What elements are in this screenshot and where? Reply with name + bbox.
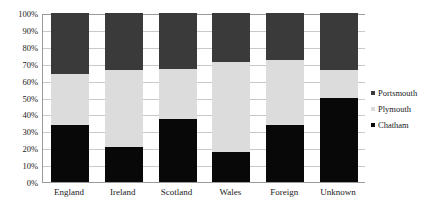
- y-axis-tick-label: 100%: [0, 10, 38, 19]
- x-axis-label-wales: Wales: [204, 186, 258, 198]
- bar-segment-plymouth[interactable]: [266, 60, 304, 124]
- bar-segment-chatham[interactable]: [212, 152, 250, 182]
- bar-segment-portsmouth[interactable]: [212, 13, 250, 62]
- legend-label: Portsmouth: [378, 88, 417, 98]
- bar-segment-portsmouth[interactable]: [266, 13, 304, 60]
- y-axis-tick-label: 90%: [0, 26, 38, 35]
- square-marker: [371, 123, 375, 127]
- bar-group-scotland: [151, 14, 205, 182]
- x-axis: EnglandIrelandScotlandWalesForeignUnknow…: [42, 186, 365, 204]
- bar-series-container: [43, 14, 365, 182]
- stacked-bar[interactable]: [51, 13, 89, 182]
- chart-legend: PortsmouthPlymouthChatham: [371, 85, 433, 133]
- bar-group-unknown: [312, 14, 366, 182]
- y-axis-tick-label: 70%: [0, 60, 38, 69]
- x-axis-label-scotland: Scotland: [150, 186, 204, 198]
- plot-area: [42, 14, 365, 183]
- x-axis-label-ireland: Ireland: [96, 186, 150, 198]
- bar-segment-plymouth[interactable]: [159, 69, 197, 120]
- square-marker: [371, 91, 375, 95]
- stacked-bar[interactable]: [159, 13, 197, 182]
- y-axis-tick-label: 0%: [0, 179, 38, 188]
- y-axis-tick-label: 30%: [0, 128, 38, 137]
- bar-segment-portsmouth[interactable]: [105, 13, 143, 70]
- bar-segment-portsmouth[interactable]: [159, 13, 197, 69]
- bar-segment-plymouth[interactable]: [51, 74, 89, 125]
- square-marker: [371, 107, 375, 111]
- y-axis-tick-label: 50%: [0, 94, 38, 103]
- legend-item-portsmouth[interactable]: Portsmouth: [371, 85, 433, 101]
- bar-group-wales: [205, 14, 259, 182]
- bar-group-foreign: [258, 14, 312, 182]
- y-axis-tick-label: 40%: [0, 111, 38, 120]
- y-axis-tick-label: 80%: [0, 43, 38, 52]
- bar-segment-chatham[interactable]: [266, 125, 304, 182]
- bar-segment-plymouth[interactable]: [320, 70, 358, 97]
- legend-label: Chatham: [378, 120, 409, 130]
- bar-segment-plymouth[interactable]: [212, 62, 250, 152]
- y-axis-tick-label: 10%: [0, 162, 38, 171]
- legend-item-plymouth[interactable]: Plymouth: [371, 101, 433, 117]
- stacked-bar[interactable]: [266, 13, 304, 182]
- bar-segment-portsmouth[interactable]: [51, 13, 89, 74]
- legend-label: Plymouth: [378, 104, 411, 114]
- stacked-bar[interactable]: [105, 13, 143, 182]
- legend-item-chatham[interactable]: Chatham: [371, 117, 433, 133]
- bar-segment-chatham[interactable]: [320, 98, 358, 183]
- bar-segment-chatham[interactable]: [51, 125, 89, 182]
- x-axis-label-unknown: Unknown: [311, 186, 365, 198]
- bar-group-england: [43, 14, 97, 182]
- stacked-bar[interactable]: [212, 13, 250, 182]
- stacked-bar[interactable]: [320, 13, 358, 182]
- y-axis-tick-label: 20%: [0, 145, 38, 154]
- bar-segment-chatham[interactable]: [105, 147, 143, 182]
- y-axis-tick-label: 60%: [0, 77, 38, 86]
- bar-segment-portsmouth[interactable]: [320, 13, 358, 70]
- bar-segment-chatham[interactable]: [159, 119, 197, 182]
- stacked-bar-chart: 0%10%20%30%40%50%60%70%80%90%100% Englan…: [0, 0, 433, 215]
- x-axis-label-england: England: [42, 186, 96, 198]
- y-axis: 0%10%20%30%40%50%60%70%80%90%100%: [0, 14, 38, 183]
- bar-segment-plymouth[interactable]: [105, 70, 143, 146]
- bar-group-ireland: [97, 14, 151, 182]
- x-axis-label-foreign: Foreign: [257, 186, 311, 198]
